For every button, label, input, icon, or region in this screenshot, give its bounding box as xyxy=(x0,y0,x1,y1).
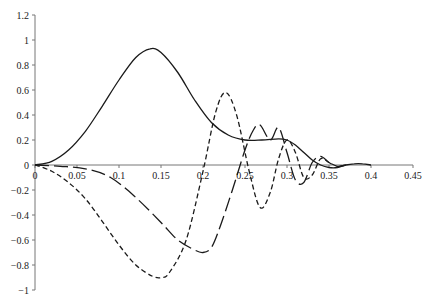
x-tick-label: 0 xyxy=(33,170,38,181)
y-tick-label: 1 xyxy=(24,35,29,46)
y-tick-label: 1.2 xyxy=(17,10,30,21)
y-tick-label: 0.2 xyxy=(17,135,30,146)
series-long-dashed xyxy=(35,124,346,252)
x-axis: 00.050.10.150.20.250.30.350.40.45 xyxy=(33,165,422,181)
y-tick-label: 0 xyxy=(24,160,29,171)
x-tick-label: 0.4 xyxy=(365,170,378,181)
y-tick-label: 0.8 xyxy=(17,60,30,71)
y-tick-label: −0.2 xyxy=(11,185,29,196)
x-tick-label: 0.3 xyxy=(281,170,294,181)
y-tick-label: 0.4 xyxy=(17,110,30,121)
y-tick-label: 0.6 xyxy=(17,85,30,96)
y-axis: 1.210.80.60.40.20−0.2−0.4−0.6−0.8−1 xyxy=(11,10,35,296)
series-short-dashed xyxy=(35,92,346,277)
line-chart: 1.210.80.60.40.20−0.2−0.4−0.6−0.8−1 00.0… xyxy=(0,0,430,306)
y-tick-label: −0.8 xyxy=(11,260,29,271)
series-solid xyxy=(35,48,371,167)
x-tick-label: 0.35 xyxy=(320,170,338,181)
x-tick-label: 0.15 xyxy=(152,170,170,181)
x-tick-label: 0.05 xyxy=(68,170,86,181)
y-tick-label: −1 xyxy=(18,285,29,296)
y-tick-label: −0.4 xyxy=(11,210,29,221)
series-layer xyxy=(35,48,371,277)
x-tick-label: 0.45 xyxy=(404,170,422,181)
y-tick-label: −0.6 xyxy=(11,235,29,246)
